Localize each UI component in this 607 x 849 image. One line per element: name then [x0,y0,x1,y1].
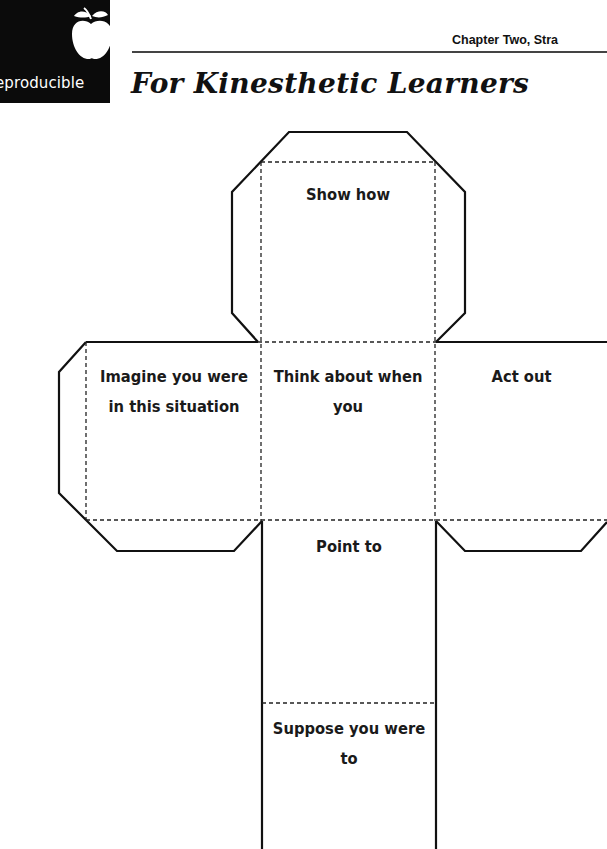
top-face-outline [232,132,465,342]
right-face-outline [436,521,607,551]
face-lower-label: Point to [269,532,429,562]
face-center-label: Think about when you [268,362,428,422]
face-bottom-line2: to [269,744,429,774]
face-bottom-label: Suppose you were to [269,714,429,774]
fold-lines [86,162,607,703]
face-center-line1: Think about when [268,362,428,392]
face-right-label: Act out [443,362,600,392]
face-top-label: Show how [268,180,428,210]
face-bottom-line1: Suppose you were [269,714,429,744]
face-left-label: Imagine you were in this situation [93,362,255,422]
face-center-line2: you [268,392,428,422]
face-left-line2: in this situation [93,392,255,422]
face-right-text: Act out [492,367,552,386]
face-left-line1: Imagine you were [93,362,255,392]
face-lower-text: Point to [316,537,382,556]
face-top-text: Show how [306,185,390,204]
